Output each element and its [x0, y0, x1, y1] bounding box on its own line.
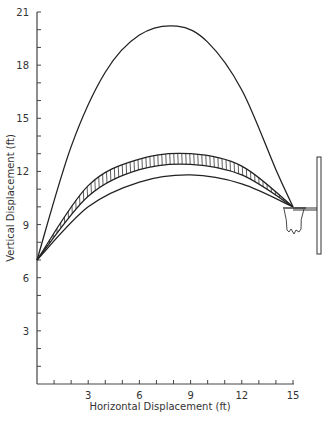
trajectory-curves	[37, 26, 293, 260]
x-tick-labels: 3691215	[85, 390, 299, 401]
y-tick-label: 15	[16, 113, 29, 124]
y-tick-label: 21	[16, 7, 29, 18]
trajectory-chart: 36912151821 3691215 Horizontal Displacem…	[0, 0, 326, 423]
y-tick-label: 9	[23, 220, 29, 231]
high-arc-trajectory	[37, 26, 293, 260]
y-tick-label: 3	[23, 326, 29, 337]
net	[284, 209, 304, 234]
low-arc-trajectory	[37, 175, 293, 260]
y-axis-title: Vertical Displacement (ft)	[5, 134, 16, 262]
x-tick-label: 3	[85, 390, 91, 401]
x-axis	[37, 380, 294, 384]
y-axis	[37, 12, 41, 384]
x-tick-label: 6	[136, 390, 142, 401]
band-upper-bound	[37, 153, 293, 260]
y-tick-labels: 36912151821	[16, 7, 29, 337]
x-tick-label: 9	[187, 390, 193, 401]
y-tick-label: 12	[16, 166, 29, 177]
y-tick-label: 6	[23, 273, 29, 284]
x-axis-title: Horizontal Displacement (ft)	[89, 401, 230, 412]
y-tick-label: 18	[16, 60, 29, 71]
x-tick-label: 12	[235, 390, 248, 401]
backboard	[317, 157, 321, 254]
x-tick-label: 15	[287, 390, 300, 401]
hatched-band	[0, 136, 315, 278]
